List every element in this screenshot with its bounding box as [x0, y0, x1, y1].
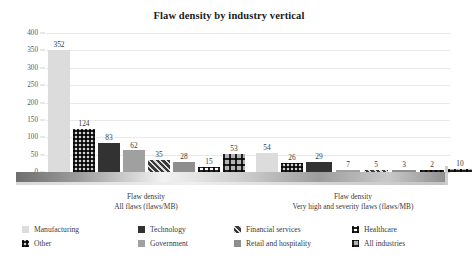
y-axis: 400350300250200150100500 [8, 33, 42, 172]
chart-floor-edge [16, 182, 448, 185]
y-axis-tick-label: 50 [8, 151, 38, 159]
legend-swatch-icon [22, 226, 29, 233]
bar-value-label: 54 [263, 144, 270, 151]
y-axis-tick-mark [40, 85, 45, 86]
chart-legend: ManufacturingOtherTechnologyGovernmentFi… [22, 226, 442, 262]
bar-value-label: 3 [402, 161, 406, 168]
gridline [46, 120, 450, 121]
bar-manufacturing-group1[interactable]: 352 [48, 50, 70, 172]
bar-value-label: 10 [456, 160, 463, 167]
gridline [46, 33, 450, 34]
bar-value-label: 15 [205, 158, 212, 165]
bar-value-label: 53 [230, 145, 237, 152]
y-axis-tick-mark [40, 50, 45, 51]
bar-value-label: 28 [180, 153, 187, 160]
bar-value-label: 83 [105, 134, 112, 141]
legend-label: All industries [364, 240, 405, 248]
y-axis-tick-label: 150 [8, 116, 38, 124]
y-axis-tick-label: 400 [8, 29, 38, 37]
x-axis-group-label-1: Flaw density All flaws (flaws/MB) [56, 192, 236, 212]
bar-government-group1[interactable]: 62 [123, 150, 145, 172]
bar-all-industries-group1[interactable]: 53 [223, 154, 245, 172]
plot-area: 352124836235281553542629753210 [46, 33, 450, 172]
legend-label: Technology [150, 226, 186, 234]
legend-item-other[interactable]: Other [22, 240, 51, 248]
bar-value-label: 2 [430, 161, 434, 168]
legend-item-healthcare[interactable]: Healthcare [352, 226, 397, 234]
y-axis-tick-label: 250 [8, 81, 38, 89]
group-label-line1: Flaw density [127, 192, 165, 201]
y-axis-tick-label: 100 [8, 133, 38, 141]
bar-value-label: 5 [374, 161, 378, 168]
y-axis-tick-mark [40, 137, 45, 138]
bar-financial-services-group1[interactable]: 35 [148, 160, 170, 172]
bar-other-group1[interactable]: 124 [73, 129, 95, 172]
bar-value-label: 352 [53, 41, 64, 48]
y-axis-tick-mark [40, 102, 45, 103]
legend-item-financial-services[interactable]: Financial services [234, 226, 301, 234]
y-axis-tick-mark [40, 119, 45, 120]
chart-floor-right-wall [445, 166, 448, 185]
legend-label: Government [150, 240, 188, 248]
legend-swatch-icon [138, 240, 145, 247]
y-axis-tick-label: 300 [8, 64, 38, 72]
legend-item-government[interactable]: Government [138, 240, 188, 248]
group-label-line1: Flaw density [334, 192, 372, 201]
bar-value-label: 7 [346, 161, 350, 168]
bar-value-label: 26 [288, 154, 295, 161]
legend-label: Healthcare [364, 226, 397, 234]
bar-technology-group1[interactable]: 83 [98, 143, 120, 172]
y-axis-tick-mark [40, 33, 45, 34]
legend-swatch-icon [352, 240, 359, 247]
bar-technology-group2[interactable]: 29 [306, 162, 332, 172]
gridline [46, 103, 450, 104]
y-axis-tick-mark [40, 67, 45, 68]
x-axis-group-label-2: Flaw density Very high and severity flaw… [258, 192, 448, 212]
legend-label: Other [34, 240, 51, 248]
legend-item-retail-and-hospitality[interactable]: Retail and hospitality [234, 240, 311, 248]
gridline [46, 68, 450, 69]
legend-swatch-icon [234, 240, 241, 247]
legend-swatch-icon [138, 226, 145, 233]
gridline [46, 50, 450, 51]
legend-label: Manufacturing [34, 226, 79, 234]
legend-label: Retail and hospitality [246, 240, 311, 248]
y-axis-tick-label: 350 [8, 46, 38, 54]
bar-retail-and-hospitality-group1[interactable]: 28 [173, 162, 195, 172]
bar-value-label: 62 [130, 142, 137, 149]
legend-item-technology[interactable]: Technology [138, 226, 186, 234]
legend-item-manufacturing[interactable]: Manufacturing [22, 226, 79, 234]
legend-swatch-icon [234, 226, 241, 233]
legend-item-all-industries[interactable]: All industries [352, 240, 405, 248]
page-title: Flaw density by industry vertical [0, 10, 458, 21]
legend-swatch-icon [352, 226, 359, 233]
group-label-line2: Very high and severity flaws (flaws/MB) [258, 202, 448, 212]
group-label-line2: All flaws (flaws/MB) [56, 202, 236, 212]
y-axis-tick-mark [40, 154, 45, 155]
gridline [46, 85, 450, 86]
bar-value-label: 29 [315, 153, 322, 160]
bar-manufacturing-group2[interactable]: 54 [256, 153, 278, 172]
bar-value-label: 124 [78, 120, 89, 127]
bar-other-group2[interactable]: 26 [281, 163, 303, 172]
bar-value-label: 35 [155, 151, 162, 158]
legend-swatch-icon [22, 240, 29, 247]
y-axis-tick-label: 200 [8, 99, 38, 107]
legend-label: Financial services [246, 226, 301, 234]
bar-all-industries-group2[interactable]: 10 [448, 169, 472, 172]
